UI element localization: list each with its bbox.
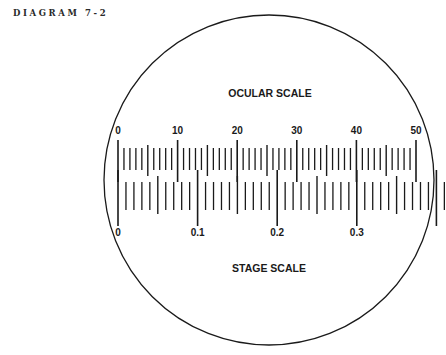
field-of-view-circle bbox=[104, 15, 434, 345]
ocular-tick-label: 10 bbox=[172, 125, 184, 136]
stage-tick-label: 0.3 bbox=[350, 227, 364, 238]
stage-tick-label: 0 bbox=[115, 227, 121, 238]
stage-scale-title: STAGE SCALE bbox=[232, 262, 306, 274]
ocular-tick-label: 30 bbox=[291, 125, 303, 136]
ocular-tick-label: 50 bbox=[410, 125, 422, 136]
stage-tick-label: 0.1 bbox=[191, 227, 205, 238]
ocular-tick-label: 0 bbox=[115, 125, 121, 136]
stage-scale: 00.10.20.3 bbox=[115, 170, 444, 238]
micrometer-diagram: 01020304050 00.10.20.3 OCULAR SCALE STAG… bbox=[0, 0, 446, 355]
stage-tick-label: 0.2 bbox=[270, 227, 284, 238]
ocular-scale-title: OCULAR SCALE bbox=[228, 87, 311, 99]
ocular-scale: 01020304050 bbox=[115, 125, 422, 182]
ocular-tick-label: 40 bbox=[351, 125, 363, 136]
ocular-tick-label: 20 bbox=[232, 125, 244, 136]
